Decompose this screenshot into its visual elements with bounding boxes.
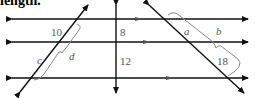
brace-b-18 [168,13,240,76]
parallel-lines-diagram [0,0,255,98]
transversal-right [149,5,244,93]
label-10: 10 [51,27,62,38]
label-b: b [216,26,222,37]
label-8: 8 [120,27,126,38]
label-c: c [37,55,42,66]
transversal-left [20,5,88,92]
label-12: 12 [120,56,131,67]
label-18: 18 [217,56,228,67]
label-a: a [184,26,190,37]
horizontal-line-bottom [12,76,248,80]
horizontal-line-top [12,17,248,21]
label-d: d [69,51,75,62]
